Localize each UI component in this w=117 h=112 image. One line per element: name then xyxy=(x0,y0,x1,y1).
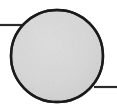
diagram-svg xyxy=(0,0,117,112)
figure-canvas: Circle node with left and right connecto… xyxy=(0,0,117,112)
